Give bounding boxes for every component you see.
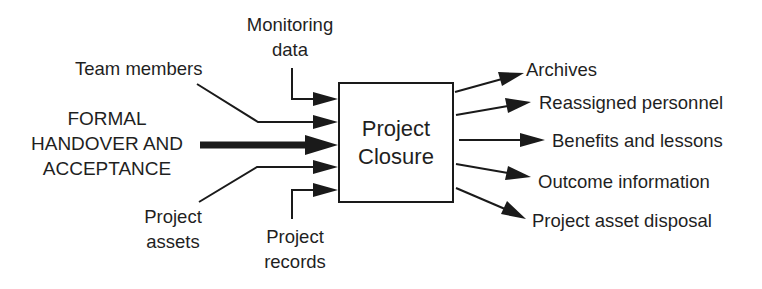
arrow-benefits-head xyxy=(520,133,545,147)
output-archives: Archives xyxy=(526,57,597,82)
input-assets-line1: Project xyxy=(128,204,218,229)
arrow-asset-disposal xyxy=(456,188,505,209)
arrow-project-assets-head xyxy=(313,160,338,174)
arrow-formal-handover-head xyxy=(305,135,338,155)
arrow-outcome-head xyxy=(505,166,531,180)
process-label-line2: Closure xyxy=(358,143,434,171)
input-monitoring-line1: Monitoring xyxy=(240,12,340,37)
arrow-archives-head xyxy=(498,72,524,86)
output-benefits-and-lessons: Benefits and lessons xyxy=(552,128,723,153)
process-label-line1: Project xyxy=(362,115,430,143)
process-label: Project Closure xyxy=(339,83,453,202)
output-outcome-information: Outcome information xyxy=(538,169,710,194)
arrow-project-records xyxy=(292,190,313,219)
arrow-asset-disposal-head xyxy=(501,201,526,219)
arrow-monitoring-data xyxy=(292,68,313,99)
arrow-team-members-head xyxy=(313,115,338,129)
arrow-team-members xyxy=(197,84,313,122)
input-records-line2: records xyxy=(250,249,340,274)
arrow-monitoring-data-head xyxy=(313,92,338,106)
input-project-records: Project records xyxy=(250,224,340,274)
arrow-project-assets xyxy=(199,167,313,202)
output-project-asset-disposal: Project asset disposal xyxy=(532,208,712,233)
input-records-line1: Project xyxy=(250,224,340,249)
arrow-reassigned xyxy=(456,106,508,115)
arrow-project-records-head xyxy=(313,183,338,197)
input-monitoring-line2: data xyxy=(240,37,340,62)
input-team-members: Team members xyxy=(75,56,202,81)
input-formal-line3: ACCEPTANCE xyxy=(14,156,200,181)
output-reassigned-personnel: Reassigned personnel xyxy=(539,90,723,115)
arrow-reassigned-head xyxy=(505,98,531,113)
input-formal-line1: FORMAL xyxy=(14,106,200,131)
input-formal-handover: FORMAL HANDOVER AND ACCEPTANCE xyxy=(14,106,200,181)
input-formal-line2: HANDOVER AND xyxy=(14,131,200,156)
input-project-assets: Project assets xyxy=(128,204,218,254)
arrow-outcome xyxy=(456,164,508,173)
arrow-archives xyxy=(455,79,502,92)
input-assets-line2: assets xyxy=(128,229,218,254)
input-monitoring-data: Monitoring data xyxy=(240,12,340,62)
